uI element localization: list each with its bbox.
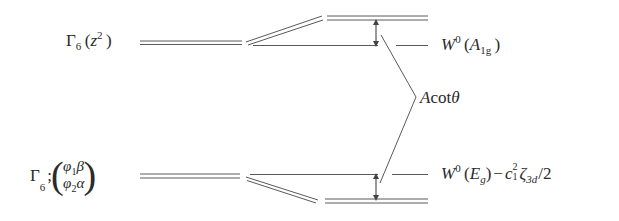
paren-close: ) [491,35,500,54]
gamma-subscript: 6 [40,181,46,193]
lower-right-label: W0 (Eg)−c21ζ3d/2 [441,165,552,182]
energy-symbol: W [441,35,455,54]
basis-row-1: φ1β [63,158,84,175]
shift-prefix: A [420,88,430,107]
irrep-subscript: 1g [480,44,491,56]
upper-shifted-level [327,16,428,20]
paren-open: ( [51,156,64,194]
upper-unsplit-level [140,41,242,45]
shift-variable: θ [451,88,459,107]
shift-leader-line [380,35,416,183]
lower-unsplit-level [140,174,240,178]
paren-close: ) [84,156,97,194]
paren-close: ) [486,164,492,183]
lower-left-label: Γ6;(φ1βφ2α) [30,158,92,192]
gamma-symbol: Γ [30,166,40,185]
paren-open: ( [461,164,470,183]
paren-open: ( [461,35,470,54]
irrep: A [470,35,480,54]
lower-shifted-level [325,199,428,203]
gamma-symbol: Γ [66,31,76,50]
paren-close: ) [103,31,112,50]
coefficient-subscript: 1 [512,172,517,182]
upper-right-label: W0 (A1g ) [441,36,500,53]
divide-by-two: /2 [538,164,551,183]
basis-vector: (φ1βφ2α) [55,158,92,192]
basis-row-2: φ2α [63,175,84,192]
upper-left-label: Γ6 (z2 ) [66,32,112,49]
coefficient: c [505,164,513,183]
shift-label: Acotθ [420,89,460,106]
upper-split-diagonal [246,16,323,45]
irrep: E [470,164,480,183]
lower-split-diagonal [246,177,318,203]
spin-orbit-subscript: 3d [526,173,537,185]
shift-function: cot [430,88,451,107]
energy-symbol: W [441,164,455,183]
minus-sign: − [493,164,503,183]
